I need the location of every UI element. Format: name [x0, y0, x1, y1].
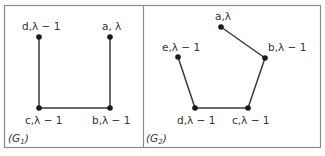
node-b: [107, 105, 113, 111]
node-a: [107, 34, 113, 40]
label-b: b,λ − 1: [268, 41, 306, 53]
label-d: d,λ − 1: [22, 20, 60, 32]
edge-a-b: [221, 27, 265, 58]
label-d: d,λ − 1: [177, 114, 215, 126]
label-c: c,λ − 1: [25, 114, 62, 126]
node-e: [175, 54, 181, 60]
node-c: [36, 105, 42, 111]
node-d: [192, 105, 198, 111]
label-a: a,λ: [215, 10, 231, 22]
edge-b-c: [248, 58, 265, 108]
node-b: [262, 55, 268, 61]
node-c: [245, 105, 251, 111]
node-a: [218, 24, 224, 30]
label-c: c,λ − 1: [232, 114, 269, 126]
caption-g1: (G1): [8, 132, 29, 146]
graph-figure: d,λ − 1 a, λ c,λ − 1 b,λ − 1 (G1) a,λ b,…: [0, 0, 325, 156]
caption-g2: (G2): [146, 132, 167, 146]
edge-d-e: [178, 57, 195, 108]
panel-g2: a,λ b,λ − 1 e,λ − 1 d,λ − 1 c,λ − 1 (G2): [146, 10, 306, 146]
label-e: e,λ − 1: [162, 41, 200, 53]
label-a: a, λ: [102, 20, 121, 32]
node-d: [36, 34, 42, 40]
panel-g1: d,λ − 1 a, λ c,λ − 1 b,λ − 1 (G1): [8, 20, 130, 146]
label-b: b,λ − 1: [92, 114, 130, 126]
